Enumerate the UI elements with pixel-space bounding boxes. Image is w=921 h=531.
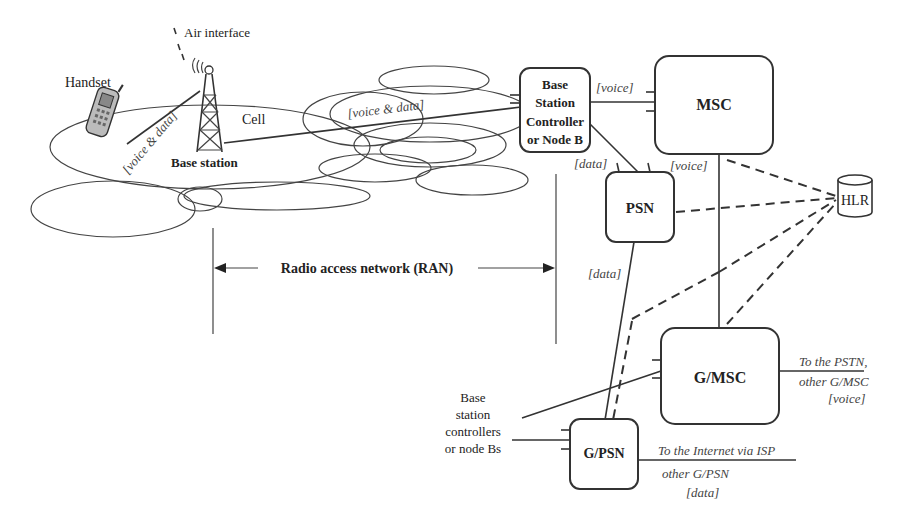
cell-ellipse [416,165,528,195]
bs-bsc-link-label: [voice & data] [347,97,426,121]
psn-gpsn-label: [data] [588,266,621,281]
gpsn-node[interactable]: G/PSN [561,419,638,489]
gmsc-node[interactable]: G/MSC [652,328,779,424]
cell-ellipse [380,137,476,163]
pstn-line-2: other G/MSC [799,374,869,389]
internet-line-1: To the Internet via ISP [658,443,775,458]
other-bsc-line-4: or node Bs [445,441,501,456]
cell-ellipse [31,181,195,237]
pstn-line-3: [voice] [828,391,866,406]
cell-ellipse [178,187,222,211]
cell-ellipse [184,182,370,210]
gmsc-label: G/MSC [694,369,746,386]
hlr-database-icon[interactable]: HLR [838,175,872,217]
msc-label: MSC [696,96,732,113]
other-bsc-line-1: Base [460,390,486,405]
msc-node[interactable]: MSC [646,56,773,154]
psn-label: PSN [626,200,655,216]
ran-label: Radio access network (RAN) [281,261,454,277]
pstn-line-1: To the PSTN, [799,354,868,369]
air-interface-label: Air interface [184,25,250,40]
other-bsc-line-3: controllers [445,424,501,439]
air-interface-marker [174,28,184,60]
ran-span: Radio access network (RAN) [213,174,556,344]
base-station-label: Base station [171,155,239,170]
hlr-label: HLR [841,193,870,208]
bsc-line-3: Controller [526,114,584,129]
bsc-psn-label: [data] [574,156,607,171]
internet-line-2: other G/PSN [662,466,730,481]
cell-ellipse [319,154,431,182]
network-diagram: Air interface Handset [voice & data] Cel… [0,0,921,531]
bsc-msc-label: [voice] [596,80,634,95]
bsc-line-2: Station [535,95,576,110]
other-bsc-gmsc-link [522,371,661,418]
bsc-line-4: or Node B [527,132,583,147]
other-bsc-line-2: station [456,407,491,422]
internet-line-3: [data] [686,485,719,500]
psn-node[interactable]: PSN [606,172,674,242]
psn-msc-label: [voice] [670,158,708,173]
bsc-node[interactable]: Base Station Controller or Node B [510,68,590,152]
gpsn-label: G/PSN [583,446,624,461]
cell-ellipse [379,66,489,94]
cell-label: Cell [242,112,265,127]
bsc-line-1: Base [542,77,568,92]
